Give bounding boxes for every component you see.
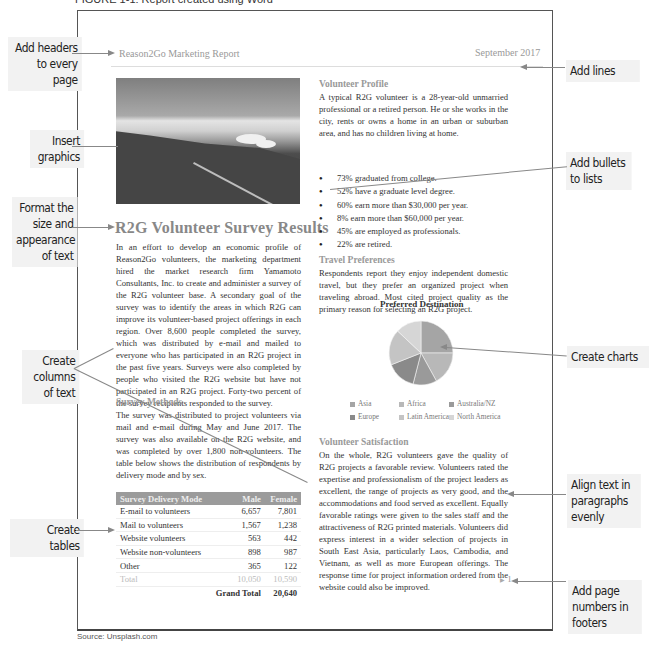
legend-label: North America xyxy=(457,412,501,421)
arrow-right-icon xyxy=(108,224,115,230)
cell-male: 1,567 xyxy=(210,518,265,532)
legend-label: Africa xyxy=(407,399,426,408)
chart-title: Preferred Destination xyxy=(380,299,463,309)
callout-align: Align text in paragraphs evenly xyxy=(567,474,641,528)
cell-male: 563 xyxy=(210,532,265,546)
arrow-left-icon xyxy=(440,344,447,350)
cell-grand-total-value: 20,640 xyxy=(265,586,301,599)
legend-swatch xyxy=(350,402,355,407)
arrow-left-icon xyxy=(507,491,514,497)
legend-swatch xyxy=(449,415,454,420)
cell-male: 365 xyxy=(210,559,265,573)
cell-mode: Other xyxy=(116,559,210,573)
col-header-female: Female xyxy=(265,492,301,505)
callout-graphics: Insert graphics xyxy=(30,130,84,168)
leader-line xyxy=(527,67,565,68)
leader-line xyxy=(518,581,566,582)
legend-item-north-america: North America xyxy=(449,412,501,421)
volunteer-profile-heading: Volunteer Profile xyxy=(319,79,388,89)
list-item: 60% earn more than $30,000 per year. xyxy=(319,199,468,212)
col-header-male: Male xyxy=(210,492,265,505)
cell-mode: Website non-volunteers xyxy=(116,545,210,559)
table-row: Other 365 122 xyxy=(116,559,301,573)
volunteer-satisfaction-heading: Volunteer Satisfaction xyxy=(319,437,408,447)
cell-female: 442 xyxy=(265,532,301,546)
callout-columns: Create columns of text xyxy=(22,350,79,404)
leader-line xyxy=(514,494,566,495)
legend-label: Asia xyxy=(358,399,371,408)
header-left-text: Reason2Go Marketing Report xyxy=(119,48,240,59)
cell-mode: Mail to volunteers xyxy=(116,518,210,532)
cell-female: 1,238 xyxy=(265,518,301,532)
legend-label: Australia/NZ xyxy=(457,399,496,408)
pie-chart xyxy=(388,320,454,386)
legend-label: Latin America xyxy=(407,412,449,421)
cell-male: 6,657 xyxy=(210,505,265,518)
leader-line xyxy=(72,227,108,228)
document-title: R2G Volunteer Survey Results xyxy=(115,219,329,237)
leader-line xyxy=(72,53,108,54)
legend-swatch xyxy=(399,415,404,420)
landscape-photo xyxy=(116,78,300,204)
table-total-row: Total 10,050 10,590 xyxy=(116,572,301,586)
arrow-left-icon xyxy=(520,64,527,70)
survey-methods-paragraph: The survey was distributed to project vo… xyxy=(116,409,301,481)
legend-swatch xyxy=(399,402,404,407)
callout-lines: Add lines xyxy=(566,60,640,82)
col-header-mode: Survey Delivery Mode xyxy=(116,492,210,505)
callout-tables: Create tables xyxy=(10,519,84,557)
leader-line xyxy=(76,530,108,531)
intro-paragraph: In an effort to develop an economic prof… xyxy=(116,241,301,409)
cell-female: 987 xyxy=(265,545,301,559)
figure-caption: FIGURE 1-1: Report created using Word xyxy=(75,0,273,5)
cell-female: 122 xyxy=(265,559,301,573)
travel-preferences-heading: Travel Preferences xyxy=(319,255,395,265)
table-row: Website non-volunteers 898 987 xyxy=(116,545,301,559)
callout-page-numbers: Add page numbers in footers xyxy=(568,580,642,634)
spacer xyxy=(200,66,540,67)
cell-total-label: Total xyxy=(116,572,210,586)
cell-mode: Website volunteers xyxy=(116,532,210,546)
legend-item-europe: Europe xyxy=(350,412,379,421)
list-item: 45% are employed as professionals. xyxy=(319,225,468,238)
legend-swatch xyxy=(350,415,355,420)
leader-line xyxy=(72,146,118,147)
table-header-row: Survey Delivery Mode Male Female xyxy=(116,492,301,505)
table-row: Mail to volunteers 1,567 1,238 xyxy=(116,518,301,532)
triangle-icon: ▶ xyxy=(500,577,505,583)
cell-total-female: 10,590 xyxy=(265,572,301,586)
callout-charts: Create charts xyxy=(567,346,649,368)
source-credit: Source: Unsplash.com xyxy=(77,632,157,641)
legend-label: Europe xyxy=(358,412,379,421)
legend-swatch xyxy=(449,402,454,407)
profile-bullet-list: 73% graduated from college. 52% have a g… xyxy=(319,172,468,252)
cell-mode: E-mail to volunteers xyxy=(116,505,210,518)
survey-table: Survey Delivery Mode Male Female E-mail … xyxy=(116,492,301,599)
volunteer-satisfaction-paragraph: On the whole, R2G volunteers gave the qu… xyxy=(319,449,508,593)
header-date: September 2017 xyxy=(475,47,540,58)
callout-bullets: Add bullets to lists xyxy=(566,152,632,190)
volunteer-profile-paragraph: A typical R2G volunteer is a 28-year-old… xyxy=(319,91,508,139)
table-row: Website volunteers 563 442 xyxy=(116,532,301,546)
legend-item-latin-america: Latin America xyxy=(399,412,449,421)
arrow-left-icon xyxy=(511,578,518,584)
table-grand-total-row: Grand Total 20,640 xyxy=(116,586,301,599)
callout-format-text: Format the size and appearance of text xyxy=(12,197,78,267)
cell-grand-total-label: Grand Total xyxy=(210,586,265,599)
arrow-right-icon xyxy=(108,527,115,533)
table-row: E-mail to volunteers 6,657 7,801 xyxy=(116,505,301,518)
cell-male: 898 xyxy=(210,545,265,559)
list-item: 22% are retired. xyxy=(319,238,468,251)
cell-female: 7,801 xyxy=(265,505,301,518)
legend-item-asia: Asia xyxy=(350,399,371,408)
arrow-right-icon xyxy=(108,50,115,56)
page-number: ▶ 1 xyxy=(500,574,512,584)
list-item: 8% earn more than $60,000 per year. xyxy=(319,212,468,225)
legend-item-africa: Africa xyxy=(399,399,426,408)
cell-total-male: 10,050 xyxy=(210,572,265,586)
callout-headers: Add headers to every page xyxy=(8,37,82,91)
legend-item-australia: Australia/NZ xyxy=(449,399,496,408)
